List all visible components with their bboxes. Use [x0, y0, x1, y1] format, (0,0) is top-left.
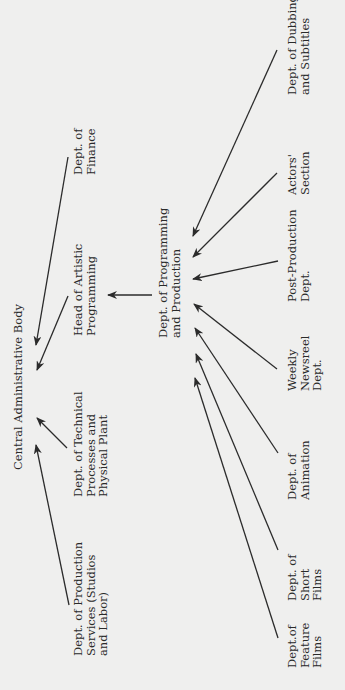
node-actors: Actors'Section — [285, 151, 312, 196]
node-label-line: Central Administrative Body — [11, 303, 25, 470]
arrow-featurefilms-to-programming — [195, 378, 278, 638]
node-label-line: and Subtitles — [298, 18, 312, 95]
node-prodservices: Dept. of ProductionServices (Studiosand … — [71, 541, 110, 656]
node-dubbing: Dept. of Dubbingand Subtitles — [285, 0, 312, 95]
node-shortfilms: Dept. ofShortFilms — [285, 554, 324, 601]
node-label-line: Physical Plant — [96, 414, 110, 497]
node-label-line: Section — [298, 151, 312, 195]
node-label-line: and Labor) — [96, 592, 110, 656]
arrow-newsreel-to-programming — [194, 304, 277, 369]
node-label-line: Dept. — [310, 359, 324, 391]
node-programming: Dept. of Programmingand Production — [156, 207, 183, 338]
node-label-line: and Production — [169, 248, 183, 338]
node-label-line: Films — [310, 569, 324, 601]
node-label-line: Programming — [84, 255, 98, 336]
arrow-actors-to-programming — [193, 173, 277, 257]
org-chart-diagram: Central Administrative BodyDept. ofFinan… — [0, 0, 345, 690]
department-labels: Central Administrative BodyDept. ofFinan… — [11, 0, 324, 668]
node-central: Central Administrative Body — [11, 303, 25, 470]
node-label-line: Films — [310, 636, 324, 668]
arrow-finance-to-central — [36, 157, 68, 345]
node-finance: Dept. ofFinance — [71, 128, 98, 175]
node-label-line: Animation — [298, 440, 312, 501]
arrow-animation-to-programming — [195, 328, 278, 453]
arrow-dubbing-to-programming — [193, 50, 277, 236]
node-technical: Dept. of TechnicalProcesses andPhysical … — [71, 391, 110, 497]
arrow-prodservices-to-central — [36, 445, 69, 605]
arrow-shortfilms-to-programming — [196, 354, 278, 550]
arrow-postproduction-to-programming — [193, 261, 278, 279]
node-artistic: Head of ArtisticProgramming — [71, 244, 98, 336]
arrow-technical-to-central — [37, 418, 67, 448]
node-label-line: Finance — [84, 128, 98, 175]
node-label-line: Dept. — [298, 270, 312, 302]
node-animation: Dept. ofAnimation — [285, 440, 312, 501]
arrow-artistic-to-central — [37, 296, 68, 370]
node-postproduction: Post-ProductionDept. — [285, 209, 312, 302]
node-featurefilms: Dept.ofFeatureFilms — [285, 622, 324, 668]
node-newsreel: WeeklyNewsreelDept. — [285, 335, 324, 391]
